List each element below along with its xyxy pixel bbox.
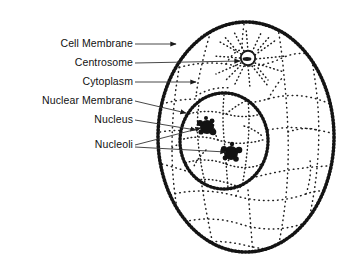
centriole-icon xyxy=(243,57,252,61)
label-centrosome: Centrosome xyxy=(75,57,133,68)
label-nucleus: Nucleus xyxy=(94,114,133,125)
label-nuclear-membrane: Nuclear Membrane xyxy=(42,95,133,106)
leader-centrosome xyxy=(135,61,240,63)
cell-diagram: Cell Membrane Centrosome Cytoplasm Nucle… xyxy=(0,0,348,269)
label-cell-membrane: Cell Membrane xyxy=(61,38,134,49)
diagram-canvas xyxy=(0,0,348,269)
label-cytoplasm: Cytoplasm xyxy=(83,76,134,87)
label-nucleoli: Nucleoli xyxy=(95,139,133,150)
